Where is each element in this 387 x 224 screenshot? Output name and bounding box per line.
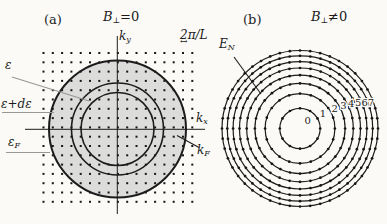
landau-index-label: 0 — [305, 115, 311, 126]
fermi-energy-label: εF — [8, 136, 20, 148]
fermi-energy-sub: F — [14, 141, 20, 150]
perp-subscript-b: ⊥ — [321, 16, 329, 25]
landau-energy-sub: N — [228, 43, 235, 52]
energy-label: ε — [5, 59, 11, 71]
landau-energy-base: E — [219, 37, 228, 51]
field-value: =0 — [120, 9, 139, 24]
landau-index-label: 3 — [340, 100, 346, 111]
kf-sub: F — [204, 149, 210, 158]
kx-sub: x — [203, 117, 208, 126]
landau-ring — [240, 68, 361, 189]
landau-energy-label: EN — [219, 38, 235, 50]
panel-b-title: B⊥≠0 — [311, 10, 347, 23]
landau-state-dots — [221, 49, 380, 208]
field-symbol-b: B — [311, 9, 321, 24]
field-value-b: ≠0 — [328, 9, 347, 24]
landau-index-labels: 01234567 — [305, 97, 374, 126]
kx-axis-label: kx — [196, 112, 208, 124]
fermi-wavevector-label: kF — [197, 144, 210, 156]
landau-ring — [280, 108, 320, 148]
energy-shell-label: ε+dε — [1, 98, 32, 110]
landau-index-label: 7 — [368, 97, 374, 108]
spacing-arrow-icon: ↔ — [180, 37, 188, 46]
panel-a-title: B⊥=0 — [103, 10, 139, 23]
perp-subscript: ⊥ — [113, 16, 121, 25]
landau-ring — [255, 83, 345, 173]
figure-landau-quantization: 01234567 (a) B⊥=0 ky 2π/L ↔ ε ε+dε εF kx… — [0, 0, 387, 224]
landau-index-label: 2 — [331, 103, 337, 114]
ky-axis-label: ky — [119, 30, 131, 42]
field-symbol: B — [103, 9, 113, 24]
panel-a-tag: (a) — [44, 13, 62, 26]
landau-index-label: 1 — [320, 108, 326, 119]
landau-index-label: 4 — [348, 98, 354, 109]
ky-sub: y — [126, 35, 131, 44]
landau-ring — [265, 94, 335, 164]
landau-index-label: 5 — [355, 97, 361, 108]
panel-b-tag: (b) — [243, 13, 261, 26]
